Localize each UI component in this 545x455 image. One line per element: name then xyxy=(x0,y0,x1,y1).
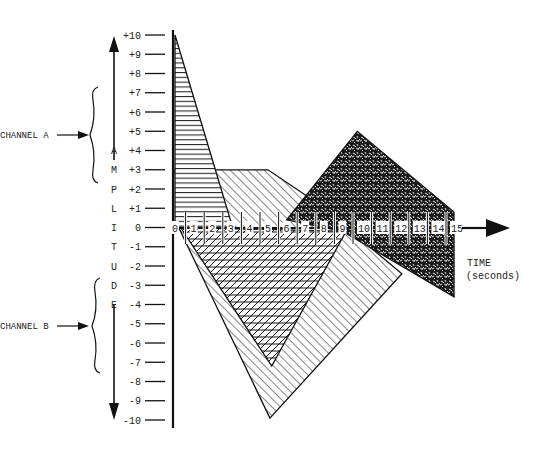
amplitude-letter: U xyxy=(111,262,117,273)
amplitude-label: AMPLITUDE xyxy=(111,146,117,311)
channel-b-label-group: CHANNEL B xyxy=(0,278,100,373)
channel-b-brace xyxy=(92,278,100,373)
y-tick-label: +7 xyxy=(129,88,141,99)
amplitude-letter: E xyxy=(111,300,117,311)
y-tick-label: -9 xyxy=(129,396,141,407)
x-tick-label: 11 xyxy=(377,224,389,235)
x-tick-label: 3 xyxy=(228,224,234,235)
amplitude-letter: P xyxy=(111,185,117,196)
time-arrow xyxy=(462,219,510,237)
y-tick-label: -1 xyxy=(129,242,141,253)
x-tick-label: 10 xyxy=(358,224,370,235)
region-horizontal-hatch xyxy=(175,35,233,228)
channel-a-arrowhead xyxy=(78,131,89,139)
x-tick-label: 9 xyxy=(339,224,345,235)
x-tick-label: 0 xyxy=(172,224,178,235)
x-tick-label: 1 xyxy=(191,224,197,235)
y-tick-label: -4 xyxy=(129,300,141,311)
amplitude-letter: I xyxy=(111,223,117,234)
channel-b-arrowhead xyxy=(78,322,89,330)
y-tick-label: -5 xyxy=(129,319,141,330)
y-tick-label: 0 xyxy=(135,223,141,234)
amplitude-down-arrow xyxy=(109,305,119,420)
y-tick-label: +10 xyxy=(123,31,141,42)
x-tick-label: 6 xyxy=(284,224,290,235)
y-tick-label: +1 xyxy=(129,204,141,215)
time-units-label: (seconds) xyxy=(466,271,520,282)
amplitude-time-diagram: +10+9+8+7+6+5+4+3+2+10-1-2-3-4-5-6-7-8-9… xyxy=(0,0,545,455)
y-tick-label: +3 xyxy=(129,165,141,176)
x-tick-label: 7 xyxy=(302,224,308,235)
y-tick-label: +5 xyxy=(129,127,141,138)
channel-a-brace xyxy=(90,87,98,183)
y-tick-label: +6 xyxy=(129,108,141,119)
y-axis: +10+9+8+7+6+5+4+3+2+10-1-2-3-4-5-6-7-8-9… xyxy=(123,30,173,428)
x-tick-label: 4 xyxy=(246,224,252,235)
channel-a-label-group: CHANNEL A xyxy=(0,87,98,183)
y-tick-label: -2 xyxy=(129,262,141,273)
x-tick-label: 13 xyxy=(414,224,426,235)
y-tick-label: -3 xyxy=(129,281,141,292)
amplitude-letter: D xyxy=(111,281,117,292)
amplitude-up-arrow xyxy=(109,36,119,160)
y-tick-label: +9 xyxy=(129,50,141,61)
y-tick-label: +8 xyxy=(129,69,141,80)
channel-a-label: CHANNEL A xyxy=(0,131,49,141)
x-tick-label: 5 xyxy=(265,224,271,235)
x-tick-label: 8 xyxy=(321,224,327,235)
x-tick-label: 15 xyxy=(451,224,463,235)
x-tick-label: 2 xyxy=(209,224,215,235)
y-tick-label: -7 xyxy=(129,358,141,369)
y-tick-label: -8 xyxy=(129,377,141,388)
y-tick-label: -6 xyxy=(129,339,141,350)
amplitude-letter: T xyxy=(111,242,117,253)
time-label: TIME xyxy=(467,258,491,269)
amplitude-letter: A xyxy=(111,146,117,157)
y-tick-label: -10 xyxy=(123,416,141,427)
x-tick-label: 14 xyxy=(432,224,444,235)
y-tick-label: +4 xyxy=(129,146,141,157)
amplitude-letter: M xyxy=(111,165,117,176)
x-tick-label: 12 xyxy=(395,224,407,235)
channel-b-label: CHANNEL B xyxy=(0,322,49,332)
y-tick-label: +2 xyxy=(129,185,141,196)
amplitude-letter: L xyxy=(111,204,117,215)
